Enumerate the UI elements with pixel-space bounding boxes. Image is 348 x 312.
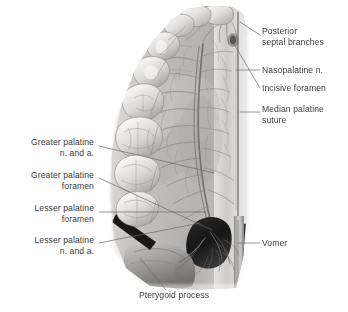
label-nasopalatine-n: Nasopalatine n. — [262, 65, 348, 76]
label-incisive-foramen: Incisive foramen — [262, 83, 348, 94]
figure-container: Posterior septal branches Nasopalatine n… — [0, 0, 348, 312]
label-greater-palatine-n-and-a: Greater palatine n. and a. — [6, 137, 94, 158]
halftone-grain — [100, 0, 255, 312]
label-pterygoid-process: Pterygoid process — [118, 290, 230, 301]
label-vomer: Vomer — [262, 238, 322, 249]
label-posterior-septal-branches: Posterior septal branches — [262, 26, 346, 47]
label-greater-palatine-foramen: Greater palatine foramen — [6, 170, 94, 191]
palate-body — [100, 0, 256, 312]
label-lesser-palatine-foramen: Lesser palatine foramen — [6, 203, 94, 224]
label-median-palatine-suture: Median palatine suture — [262, 104, 348, 125]
label-lesser-palatine-n-and-a: Lesser palatine n. and a. — [6, 235, 94, 256]
